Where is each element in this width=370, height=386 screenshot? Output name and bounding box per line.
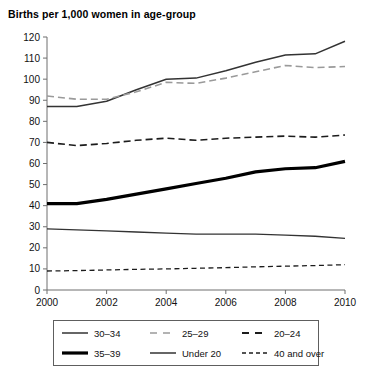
y-axis-tick-label: 110	[24, 53, 40, 64]
legend-item[interactable]: 20–24	[242, 328, 324, 339]
x-axis-ticks: 200020022004200620082010	[36, 290, 357, 308]
legend-item-label: 40 and over	[274, 348, 324, 359]
y-axis-tick-label: 100	[23, 74, 40, 85]
y-axis-tick-label: 30	[29, 221, 41, 232]
y-axis-tick-label: 70	[29, 137, 41, 148]
x-axis-tick-label: 2008	[274, 297, 297, 308]
x-axis-tick-label: 2002	[95, 297, 118, 308]
legend-item[interactable]: 25–29	[150, 328, 242, 339]
series-line	[47, 65, 345, 99]
y-axis-tick-label: 120	[23, 32, 40, 43]
series-line	[47, 135, 345, 146]
x-axis-tick-label: 2004	[155, 297, 178, 308]
legend-line-swatch-icon	[150, 348, 176, 358]
legend-item[interactable]: 35–39	[62, 348, 150, 359]
legend-item-label: Under 20	[182, 348, 221, 359]
series-line	[47, 229, 345, 238]
y-axis-tick-label: 50	[29, 179, 41, 190]
legend-item[interactable]: Under 20	[150, 348, 242, 359]
y-axis-tick-label: 40	[29, 200, 41, 211]
legend-line-swatch-icon	[62, 328, 88, 338]
legend-line-swatch-icon	[242, 348, 268, 358]
legend-line-swatch-icon	[150, 328, 176, 338]
axis-lines	[47, 37, 345, 290]
legend-item[interactable]: 40 and over	[242, 348, 324, 359]
y-axis-tick-label: 60	[29, 158, 41, 169]
legend-item-label: 25–29	[182, 328, 208, 339]
legend-line-swatch-icon	[242, 328, 268, 338]
series-line	[47, 41, 345, 106]
chart-container: Births per 1,000 women in age-group 0102…	[0, 0, 370, 386]
legend-line-swatch-icon	[62, 348, 88, 358]
y-axis-tick-label: 10	[29, 263, 41, 274]
y-axis-tick-label: 80	[29, 116, 41, 127]
x-axis-tick-label: 2006	[215, 297, 238, 308]
y-axis-ticks: 0102030405060708090100110120	[23, 32, 47, 296]
legend-item-label: 35–39	[94, 348, 120, 359]
y-axis-tick-label: 90	[29, 95, 41, 106]
legend-item-label: 30–34	[94, 328, 120, 339]
x-axis-tick-label: 2010	[334, 297, 357, 308]
legend-item-label: 20–24	[274, 328, 300, 339]
y-axis-tick-label: 0	[34, 285, 40, 296]
x-axis-tick-label: 2000	[36, 297, 59, 308]
data-series-group	[47, 41, 345, 271]
series-line	[47, 161, 345, 203]
legend-item[interactable]: 30–34	[62, 328, 150, 339]
series-line	[47, 265, 345, 271]
y-axis-tick-label: 20	[29, 242, 41, 253]
chart-legend: 30–3425–2920–2435–39Under 2040 and over	[53, 320, 319, 366]
